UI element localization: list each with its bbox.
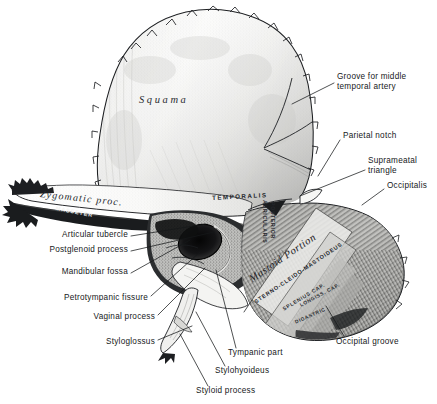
label-occipital-groove[interactable]: Occipital groove [336,337,399,347]
anatomical-figure-temporal-bone: Groove for middle temporal artery Pariet… [0,0,437,404]
label-petrotympanic-fissure[interactable]: Petrotympanic fissure [28,293,148,303]
label-auricularis-posterior-line1: AURICULARIS [262,200,268,243]
label-mandibular-fossa[interactable]: Mandibular fossa [18,267,128,277]
label-auricularis-posterior-line2: POSTERIOR [270,202,276,239]
label-occipitalis[interactable]: Occipitalis [387,181,427,191]
label-postglenoid-process[interactable]: Postglenoid process [8,245,128,255]
label-groove-middle-temporal-artery[interactable]: Groove for middle temporal artery [337,72,406,91]
label-vaginal-process[interactable]: Vaginal process [55,312,155,322]
label-tympanic-part[interactable]: Tympanic part [228,348,283,358]
label-suprameatal-triangle[interactable]: Suprameatal triangle [368,156,417,175]
label-styloglossus[interactable]: Styloglossus [75,337,155,347]
label-stylohyoideus[interactable]: Stylohyoideus [215,366,269,376]
label-articular-tubercle[interactable]: Articular tubercle [18,230,128,240]
label-styloid-process[interactable]: Styloid process [196,386,255,396]
label-parietal-notch[interactable]: Parietal notch [343,131,397,141]
label-squama: Squama [139,94,188,105]
